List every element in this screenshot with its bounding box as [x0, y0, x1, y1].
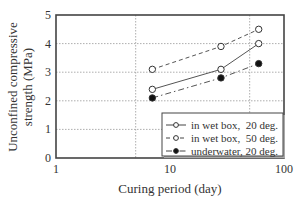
data-point — [149, 86, 155, 92]
y-axis-label-line2: strength (MPa) — [20, 48, 35, 126]
y-tick-label: 0 — [45, 151, 51, 165]
data-point — [256, 60, 262, 66]
x-axis-label: Curing period (day) — [118, 181, 221, 196]
series-1 — [149, 40, 262, 92]
y-tick-label: 4 — [45, 37, 51, 51]
legend-label: underwater, 20 deg. — [191, 145, 278, 157]
legend-marker-icon — [174, 136, 179, 141]
x-tick-label: 100 — [275, 162, 293, 176]
series-2 — [149, 26, 262, 72]
legend-marker-icon — [174, 149, 179, 154]
legend-marker-icon — [174, 123, 179, 128]
x-tick-label: 10 — [164, 162, 176, 176]
data-point — [218, 43, 224, 49]
y-axis-label-line1: Unconfined compressive — [5, 22, 20, 152]
strength-chart: 012345 110100 Curing period (day) Unconf… — [0, 0, 306, 202]
y-axis-ticks: 012345 — [45, 8, 51, 165]
legend: in wet box, 20 deg.in wet box, 50 deg.un… — [162, 113, 285, 158]
data-point — [149, 95, 155, 101]
data-point — [218, 66, 224, 72]
data-series — [149, 26, 262, 101]
series-3 — [149, 60, 262, 101]
data-point — [149, 66, 155, 72]
legend-label: in wet box, 20 deg. — [191, 119, 278, 131]
y-tick-label: 5 — [45, 8, 51, 22]
data-point — [256, 26, 262, 32]
data-point — [218, 75, 224, 81]
y-tick-label: 2 — [45, 94, 51, 108]
y-axis-label: Unconfined compressive strength (MPa) — [5, 22, 35, 152]
y-tick-label: 3 — [45, 65, 51, 79]
x-tick-label: 1 — [53, 162, 59, 176]
legend-label: in wet box, 50 deg. — [191, 132, 278, 144]
y-tick-label: 1 — [45, 122, 51, 136]
x-axis-ticks: 110100 — [53, 162, 293, 176]
data-point — [256, 40, 262, 46]
